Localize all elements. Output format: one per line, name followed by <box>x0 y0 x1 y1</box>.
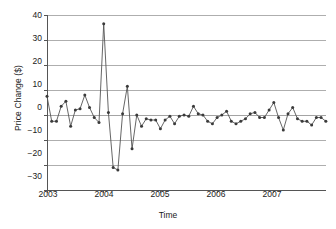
series-markers-price-change <box>46 22 328 171</box>
chart-figure: Price Change ($) Time 40 30 20 10 0 −10 … <box>0 0 336 229</box>
plot-area <box>0 0 336 229</box>
tick-marks <box>44 15 274 193</box>
axis-lines <box>47 15 326 190</box>
series-line-price-change <box>47 24 326 170</box>
gridlines <box>47 15 326 190</box>
